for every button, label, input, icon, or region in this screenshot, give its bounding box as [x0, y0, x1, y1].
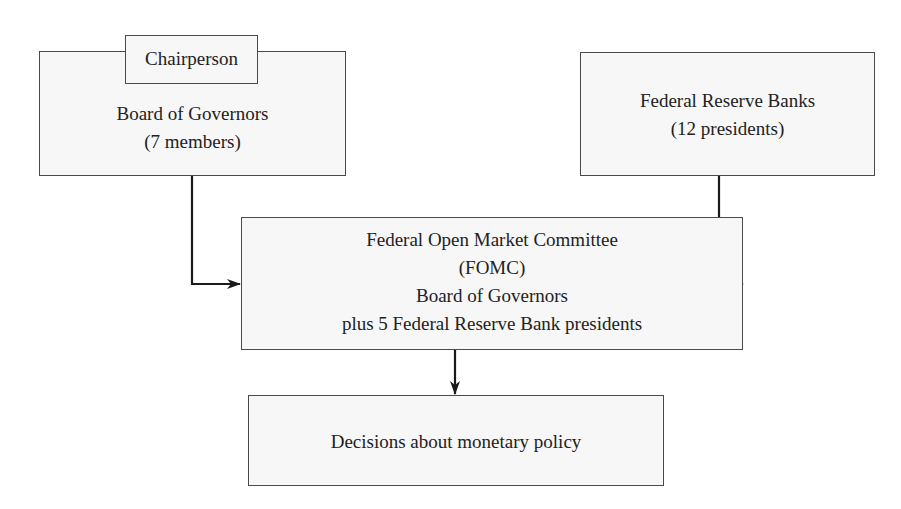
fomc-abbrev: (FOMC) — [242, 256, 742, 280]
chairperson-tab: Chairperson — [125, 35, 258, 84]
board-members: (7 members) — [40, 130, 345, 154]
decisions-box: Decisions about monetary policy — [248, 395, 664, 486]
banks-title: Federal Reserve Banks — [581, 89, 874, 113]
fomc-presidents: plus 5 Federal Reserve Bank presidents — [242, 312, 742, 336]
decisions-label: Decisions about monetary policy — [249, 430, 663, 454]
federal-reserve-banks-box: Federal Reserve Banks (12 presidents) — [580, 52, 875, 176]
chairperson-label: Chairperson — [126, 47, 257, 71]
fomc-title: Federal Open Market Committee — [242, 228, 742, 252]
fomc-board: Board of Governors — [242, 284, 742, 308]
arrow-board-to-fomc — [192, 175, 240, 284]
banks-presidents: (12 presidents) — [581, 117, 874, 141]
fomc-box: Federal Open Market Committee (FOMC) Boa… — [241, 217, 743, 350]
board-title: Board of Governors — [40, 102, 345, 126]
